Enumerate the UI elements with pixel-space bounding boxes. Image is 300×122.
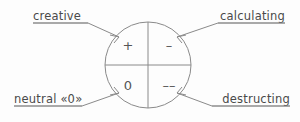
labels: creative calculating neutral «0» destruc… — [14, 9, 290, 106]
quadrant-diagram: + – 0 –– creative calculating neutral «0… — [0, 0, 300, 122]
leader-line-calculating — [177, 23, 285, 37]
leader-line-creative — [33, 23, 119, 37]
quadrant-symbol-top-left: + — [123, 38, 134, 53]
diagram-canvas: + – 0 –– creative calculating neutral «0… — [0, 0, 300, 122]
quadrant-symbol-bottom-left: 0 — [124, 78, 132, 93]
label-calculating: calculating — [220, 9, 285, 23]
label-creative: creative — [33, 9, 81, 23]
quadrant-circle-group — [105, 22, 191, 108]
quadrant-symbol-bottom-right: –– — [163, 78, 176, 93]
quadrant-symbol-top-right: – — [166, 38, 173, 53]
label-neutral: neutral «0» — [14, 92, 82, 106]
label-destructing: destructing — [222, 92, 290, 106]
